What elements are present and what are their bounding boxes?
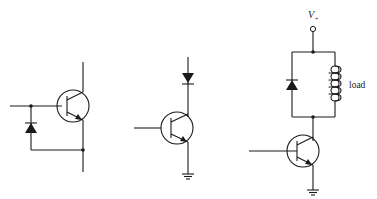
- diode-icon: [182, 73, 194, 84]
- circuit-2: [134, 57, 194, 179]
- circuit-1: [10, 62, 89, 172]
- diode-icon: [286, 80, 298, 90]
- ground-icon: [307, 190, 319, 195]
- ground-icon: [182, 174, 194, 179]
- supply-subscript: +: [315, 16, 319, 22]
- circuit-diagram: V + load: [0, 0, 377, 199]
- circuit-3: V + load: [249, 9, 366, 195]
- inductor-icon: [329, 66, 341, 101]
- supply-terminal: [310, 26, 315, 31]
- junction-dot: [81, 148, 85, 152]
- npn-transistor: [161, 112, 193, 144]
- load-label: load: [349, 80, 366, 90]
- diode-icon: [25, 123, 37, 133]
